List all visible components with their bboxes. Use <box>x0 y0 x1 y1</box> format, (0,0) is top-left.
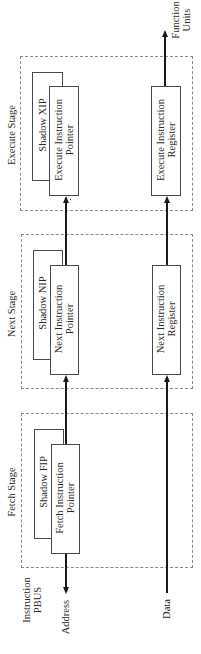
fetch-ip-line1: Fetch Instruction <box>54 448 65 548</box>
next-to-execute-register-line <box>166 202 168 265</box>
execute-ir-line1: Execute Instruction <box>155 90 166 190</box>
function-units-line <box>164 37 166 86</box>
next-to-execute-pointer-line <box>65 202 67 265</box>
function-units-line2: Units <box>181 0 192 40</box>
fetch-stage-label: Fetch Stage <box>6 463 17 521</box>
data-to-next-register-line <box>166 381 168 593</box>
pbus-line1: Instruction <box>21 572 32 628</box>
shadow-nip-label: Shadow NIP <box>37 256 48 350</box>
execute-stage-label: Execute Stage <box>6 104 17 166</box>
arrow-up-icon <box>63 375 69 382</box>
next-ir-line1: Next Instruction <box>155 269 166 369</box>
arrow-down-icon <box>63 587 69 594</box>
next-ip-line1: Next Instruction <box>53 269 64 369</box>
next-stage-label: Next Stage <box>6 287 17 341</box>
next-ip-line2: Pointer <box>64 269 75 369</box>
execute-instruction-register-label: Execute Instruction Register <box>155 90 177 190</box>
execute-ir-line2: Register <box>166 90 177 190</box>
shadow-xip-label: Shadow XIP <box>37 78 48 172</box>
pbus-line2: PBUS <box>32 572 43 628</box>
arrow-up-icon <box>63 196 69 203</box>
address-label: Address <box>60 596 71 638</box>
function-units-line1: Function <box>170 0 181 40</box>
arrow-up-icon <box>164 196 170 203</box>
address-line <box>65 554 67 587</box>
arrow-up-icon <box>162 30 168 37</box>
dot-mark <box>70 199 71 200</box>
fetch-instruction-pointer-label: Fetch Instruction Pointer <box>54 448 76 548</box>
next-instruction-register-label: Next Instruction Register <box>155 269 177 369</box>
fetch-ip-line2: Pointer <box>65 448 76 548</box>
instruction-pbus-label: Instruction PBUS <box>21 572 43 628</box>
execute-ip-line1: Execute Instruction <box>53 90 64 190</box>
arrow-up-icon <box>164 375 170 382</box>
fetch-to-next-pointer-line <box>65 381 67 444</box>
function-units-label: Function Units <box>170 0 192 40</box>
shadow-fip-label: Shadow FIP <box>38 435 49 529</box>
execute-instruction-pointer-label: Execute Instruction Pointer <box>53 90 75 190</box>
execute-ip-line2: Pointer <box>64 90 75 190</box>
data-label: Data <box>161 596 172 622</box>
next-instruction-pointer-label: Next Instruction Pointer <box>53 269 75 369</box>
next-ir-line2: Register <box>166 269 177 369</box>
